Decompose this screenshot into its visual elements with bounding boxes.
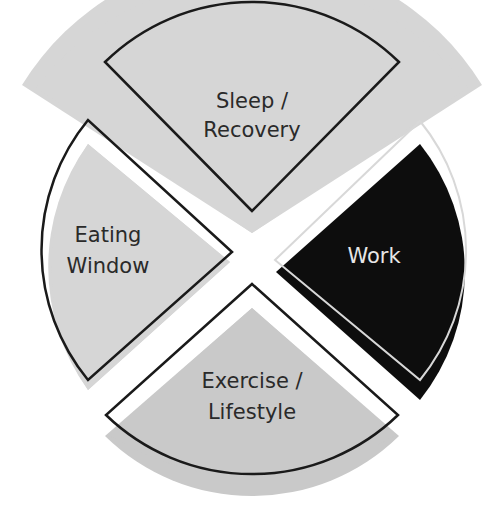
label-exercise: Exercise /: [201, 369, 303, 393]
label-sleep: Sleep /: [216, 89, 289, 113]
label-window: Window: [67, 254, 150, 278]
quadrant-diagram: Sleep / Recovery Eating Window Work Exer…: [0, 0, 504, 512]
label-work: Work: [347, 244, 401, 268]
label-recovery: Recovery: [203, 118, 300, 142]
label-lifestyle: Lifestyle: [208, 400, 296, 424]
label-eating: Eating: [75, 223, 142, 247]
